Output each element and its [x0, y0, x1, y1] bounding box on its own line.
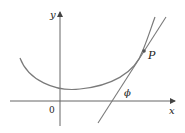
point-label: P	[147, 49, 156, 62]
curve	[20, 17, 155, 89]
point-p	[142, 49, 146, 53]
tangent-angle-diagram: y x 0 P ϕ	[0, 0, 185, 133]
tangent-line	[98, 17, 166, 123]
origin-label: 0	[49, 105, 55, 115]
x-axis-label: x	[169, 105, 175, 116]
angle-label: ϕ	[124, 87, 131, 98]
y-axis-label: y	[49, 9, 56, 20]
